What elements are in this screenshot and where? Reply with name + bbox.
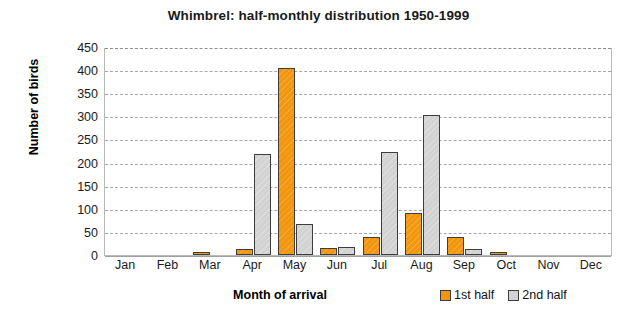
chart-container: Whimbrel: half-monthly distribution 1950… xyxy=(0,0,637,327)
bar-apr-second-half[interactable] xyxy=(254,154,271,255)
bar-group xyxy=(359,48,401,255)
bar-may-second-half[interactable] xyxy=(296,224,313,255)
legend-label: 2nd half xyxy=(522,288,566,302)
y-tick-label: 50 xyxy=(58,227,98,239)
legend-swatch-icon xyxy=(440,290,451,301)
x-tick-label-sep: Sep xyxy=(443,258,485,272)
x-tick-label-jul: Jul xyxy=(358,258,400,272)
bar-sep-first-half[interactable] xyxy=(447,237,464,255)
bar-jul-second-half[interactable] xyxy=(381,152,398,255)
chart-title: Whimbrel: half-monthly distribution 1950… xyxy=(0,8,637,23)
bar-group xyxy=(190,48,232,255)
y-tick-label: 300 xyxy=(58,111,98,123)
x-tick-label-nov: Nov xyxy=(527,258,569,272)
bar-group xyxy=(571,48,613,255)
chart-legend: 1st half2nd half xyxy=(440,288,567,302)
y-tick-label: 400 xyxy=(58,65,98,77)
y-tick-label: 150 xyxy=(58,181,98,193)
y-axis-ticks: 050100150200250300350400450 xyxy=(52,48,98,256)
x-tick-label-dec: Dec xyxy=(570,258,612,272)
x-tick-label-may: May xyxy=(273,258,315,272)
y-tick-label: 250 xyxy=(58,134,98,146)
bar-apr-first-half[interactable] xyxy=(236,249,253,255)
bar-group xyxy=(147,48,189,255)
legend-entry-second-half[interactable]: 2nd half xyxy=(508,288,566,302)
y-axis-label: Number of birds xyxy=(27,27,41,187)
bar-jul-first-half[interactable] xyxy=(363,237,380,255)
x-tick-label-oct: Oct xyxy=(485,258,527,272)
gridline xyxy=(105,256,611,257)
bar-may-first-half[interactable] xyxy=(278,68,295,255)
bar-aug-second-half[interactable] xyxy=(423,115,440,255)
bar-aug-first-half[interactable] xyxy=(405,213,422,255)
bar-sep-second-half[interactable] xyxy=(465,249,482,255)
y-tick-label: 200 xyxy=(58,158,98,170)
x-tick-label-aug: Aug xyxy=(400,258,442,272)
x-tick-label-jan: Jan xyxy=(104,258,146,272)
bar-group xyxy=(486,48,528,255)
bar-group xyxy=(444,48,486,255)
bar-mar-first-half[interactable] xyxy=(193,252,210,255)
plot-area xyxy=(104,48,612,256)
x-tick-label-mar: Mar xyxy=(189,258,231,272)
y-tick-label: 450 xyxy=(58,42,98,54)
bar-group xyxy=(105,48,147,255)
bar-jun-second-half[interactable] xyxy=(338,247,355,255)
legend-label: 1st half xyxy=(454,288,494,302)
y-tick-label: 100 xyxy=(58,204,98,216)
y-tick-label: 350 xyxy=(58,88,98,100)
x-tick-label-feb: Feb xyxy=(146,258,188,272)
bar-group xyxy=(401,48,443,255)
bar-group xyxy=(528,48,570,255)
y-tick-label: 0 xyxy=(58,250,98,262)
legend-swatch-icon xyxy=(508,290,519,301)
x-tick-label-jun: Jun xyxy=(316,258,358,272)
bar-group xyxy=(274,48,316,255)
legend-entry-first-half[interactable]: 1st half xyxy=(440,288,494,302)
x-axis-ticks: JanFebMarAprMayJunJulAugSepOctNovDec xyxy=(104,258,612,278)
bar-jun-first-half[interactable] xyxy=(320,248,337,255)
bar-oct-first-half[interactable] xyxy=(490,252,507,255)
x-tick-label-apr: Apr xyxy=(231,258,273,272)
bar-group xyxy=(232,48,274,255)
bar-group xyxy=(317,48,359,255)
x-axis-label: Month of arrival xyxy=(150,288,410,302)
